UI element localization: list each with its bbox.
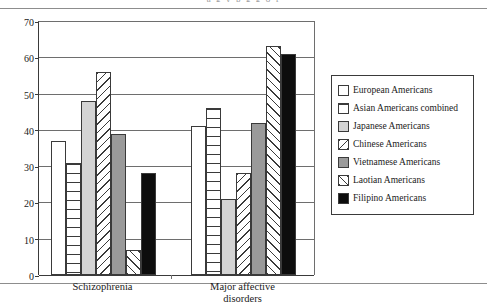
bar-group-0	[51, 22, 156, 275]
page-rule-top	[0, 8, 487, 9]
bar-asian-americans-combined-schizophrenia	[66, 163, 81, 275]
legend-item-chinese-americans: Chinese Americans	[338, 135, 469, 153]
y-tick-mark-40	[35, 130, 39, 131]
legend-item-filipino-americans: Filipino Americans	[338, 189, 469, 207]
y-axis-tick-label: 40	[24, 125, 34, 136]
y-tick-mark-60	[35, 58, 39, 59]
y-tick-mark-10	[35, 239, 39, 240]
legend-label: Japanese Americans	[353, 121, 430, 131]
bar-filipino-americans-major-affective-disorders	[281, 54, 296, 275]
legend-swatch-diag-up-icon	[338, 175, 349, 186]
bar-chart: 010203040506070	[38, 21, 315, 275]
plot-area: 010203040506070	[39, 22, 314, 275]
cutoff-header-text: a g y p g g o f	[0, 0, 487, 2]
legend-swatch-midgray-icon	[338, 157, 349, 168]
y-tick-mark-50	[35, 94, 39, 95]
y-axis-tick-label: 0	[29, 271, 34, 282]
bar-laotian-americans-schizophrenia	[126, 250, 141, 275]
bar-asian-americans-combined-major-affective-disorders	[206, 108, 221, 275]
y-axis-tick-label: 20	[24, 198, 34, 209]
bar-japanese-americans-schizophrenia	[81, 101, 96, 275]
legend-swatch-white-icon	[338, 85, 349, 96]
y-tick-mark-0	[35, 276, 39, 277]
legend-label: Vietnamese Americans	[353, 157, 440, 167]
y-tick-mark-30	[35, 167, 39, 168]
y-axis-tick-label: 50	[24, 89, 34, 100]
legend-swatch-lightgray-icon	[338, 121, 349, 132]
legend-label: Chinese Americans	[353, 139, 427, 149]
legend-swatch-black-icon	[338, 193, 349, 204]
bar-european-americans-major-affective-disorders	[191, 126, 206, 275]
bar-chinese-americans-major-affective-disorders	[236, 173, 251, 275]
legend-item-european-americans: European Americans	[338, 81, 469, 99]
y-axis-tick-label: 30	[24, 162, 34, 173]
y-axis-tick-label: 10	[24, 234, 34, 245]
chart-legend: European AmericansAsian Americans combin…	[331, 75, 474, 215]
bar-japanese-americans-major-affective-disorders	[221, 199, 236, 275]
legend-label: Laotian Americans	[353, 175, 425, 185]
legend-swatch-hstripe-icon	[338, 103, 349, 114]
bar-filipino-americans-schizophrenia	[141, 173, 156, 275]
y-axis-tick-label: 60	[24, 53, 34, 64]
bar-group-1	[191, 22, 296, 275]
legend-label: Asian Americans combined	[353, 103, 458, 113]
y-tick-mark-70	[35, 22, 39, 23]
bar-chinese-americans-schizophrenia	[96, 72, 111, 275]
legend-item-asian-americans-combined: Asian Americans combined	[338, 99, 469, 117]
y-axis-tick-label: 70	[24, 17, 34, 28]
legend-label: European Americans	[353, 85, 432, 95]
x-axis-category-label: Major affective disorders	[168, 281, 317, 305]
bar-vietnamese-americans-major-affective-disorders	[251, 123, 266, 275]
bar-laotian-americans-major-affective-disorders	[266, 46, 281, 275]
x-axis-category-label: Schizophrenia	[28, 281, 177, 293]
bar-european-americans-schizophrenia	[51, 141, 66, 275]
y-tick-mark-20	[35, 203, 39, 204]
legend-item-laotian-americans: Laotian Americans	[338, 171, 469, 189]
legend-label: Filipino Americans	[353, 193, 426, 203]
legend-item-vietnamese-americans: Vietnamese Americans	[338, 153, 469, 171]
x-axis-separator-tick	[171, 275, 172, 279]
legend-item-japanese-americans: Japanese Americans	[338, 117, 469, 135]
legend-swatch-diag-down-icon	[338, 139, 349, 150]
bar-vietnamese-americans-schizophrenia	[111, 134, 126, 276]
